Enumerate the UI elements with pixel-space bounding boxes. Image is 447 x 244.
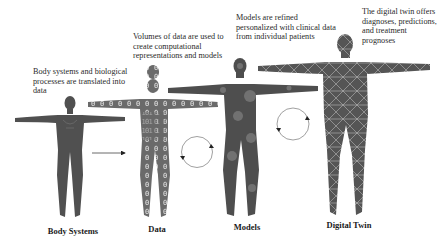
models-caption: Models are refined personalized with cli… <box>236 13 340 42</box>
cycle-arrows-icon <box>180 137 214 168</box>
body-systems-figure <box>15 96 125 217</box>
data-label: Data <box>137 224 177 234</box>
digital-twin-label: Digital Twin <box>318 220 380 230</box>
models-label: Models <box>224 222 270 232</box>
models-figure <box>168 58 318 216</box>
data-caption: Volumes of data are used to create compu… <box>133 32 229 61</box>
body-systems-label: Body Systems <box>40 226 106 236</box>
digital-twin-figure <box>258 34 430 215</box>
cycle-arrows-icon <box>276 108 310 140</box>
digital-twin-caption: The digital twin offers diagnoses, predi… <box>362 7 440 45</box>
body-systems-caption: Body systems and biological processes ar… <box>33 67 133 96</box>
